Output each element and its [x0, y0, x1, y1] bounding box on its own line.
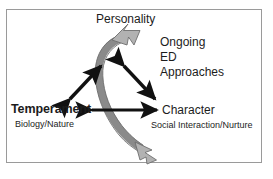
node-label-character: Character	[162, 104, 215, 116]
gray-cycle-arrow	[95, 24, 156, 164]
note-line-2: ED	[160, 50, 224, 65]
node-label-personality: Personality	[96, 13, 155, 25]
notes-block: Ongoing ED Approaches	[160, 35, 224, 80]
node-sublabel-character: Social Interaction/Nurture	[151, 121, 253, 130]
node-sublabel-temperament: Biology/Nature	[15, 120, 74, 129]
diagram-arrows-layer	[0, 0, 273, 179]
arrow-personality-character	[124, 66, 155, 99]
note-line-1: Ongoing	[160, 35, 224, 50]
diagram-screenshot: Personality Temperament Biology/Nature C…	[0, 0, 273, 179]
note-line-3: Approaches	[160, 65, 224, 80]
node-label-temperament: Temperament	[11, 103, 91, 116]
